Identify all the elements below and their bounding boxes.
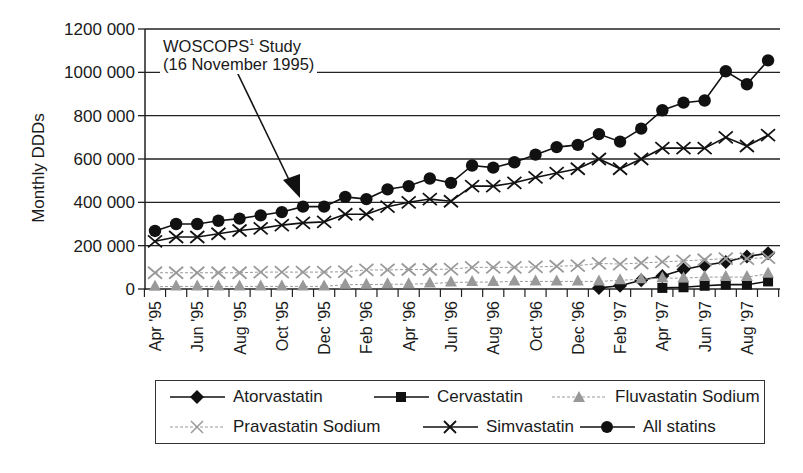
legend-label: Cervastatin — [437, 387, 523, 407]
x-tick-label: Apr '96 — [401, 301, 418, 351]
diamond-marker-icon — [170, 389, 225, 405]
legend-label: Simvastatin — [486, 417, 574, 437]
y-tick-label: 600 000 — [74, 150, 135, 169]
triangle-marker-icon — [552, 389, 607, 405]
legend-item-pravastatin: Pravastatin Sodium — [170, 417, 380, 437]
x-tick-label: Jun '97 — [697, 301, 714, 352]
legend-label: Pravastatin Sodium — [233, 417, 380, 437]
x-marker-gray-icon — [170, 419, 225, 435]
annotation-title-rest: Study — [254, 37, 301, 55]
annotation-date: (16 November 1995) — [163, 55, 314, 73]
legend-item-all-statins: All statins — [580, 417, 716, 437]
x-tick-label: Oct '95 — [274, 301, 291, 351]
y-axis-label: Monthly DDDs — [29, 113, 48, 223]
y-tick-label: 0 — [126, 280, 135, 299]
legend-label: All statins — [643, 417, 716, 437]
y-tick-label: 1200 000 — [64, 20, 135, 39]
x-tick-label: Feb '97 — [612, 301, 629, 354]
data-series — [148, 54, 775, 295]
x-tick-label: Apr '95 — [147, 301, 164, 351]
x-tick-label: Oct '96 — [528, 301, 545, 351]
legend-item-atorvastatin: Atorvastatin — [170, 387, 323, 407]
legend-item-fluvastatin: Fluvastatin Sodium — [552, 387, 760, 407]
x-tick-label: Aug '97 — [739, 301, 756, 355]
annotation-title: WOSCOPS — [163, 37, 249, 55]
annotation-arrow — [237, 72, 300, 198]
x-tick-label: Aug '95 — [232, 301, 249, 355]
circle-marker-icon — [580, 419, 635, 435]
x-tick-label: Aug '96 — [485, 301, 502, 355]
x-tick-label: Feb '96 — [358, 301, 375, 354]
y-tick-label: 200 000 — [74, 237, 135, 256]
line-chart: 0200 000400 000600 000800 0001000 000120… — [0, 0, 803, 380]
x-tick-label: Dec '95 — [316, 301, 333, 355]
y-axis: 0200 000400 000600 000800 0001000 000120… — [64, 20, 145, 299]
y-tick-label: 800 000 — [74, 107, 135, 126]
x-marker-icon — [423, 419, 478, 435]
x-tick-label: Apr '97 — [654, 301, 671, 351]
x-tick-label: Dec '96 — [570, 301, 587, 355]
x-tick-label: Jun '95 — [189, 301, 206, 352]
woscops-annotation: WOSCOPS1 Study (16 November 1995) — [160, 32, 317, 74]
legend-label: Fluvastatin Sodium — [615, 387, 760, 407]
y-tick-label: 400 000 — [74, 193, 135, 212]
legend-item-simvastatin: Simvastatin — [423, 417, 574, 437]
x-axis: Apr '95Jun '95Aug '95Oct '95Dec '95Feb '… — [144, 289, 780, 355]
chart-legend: Atorvastatin Cervastatin Fluvastatin Sod… — [155, 380, 765, 444]
series-simvastatin — [148, 129, 775, 247]
x-tick-label: Jun '96 — [443, 301, 460, 352]
legend-label: Atorvastatin — [233, 387, 323, 407]
y-tick-label: 1000 000 — [64, 63, 135, 82]
square-marker-icon — [374, 389, 429, 405]
legend-item-cervastatin: Cervastatin — [374, 387, 523, 407]
